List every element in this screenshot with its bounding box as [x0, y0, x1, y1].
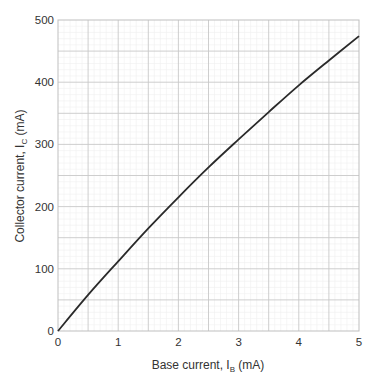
- y-tick-label: 200: [35, 201, 54, 213]
- y-tick-label: 400: [35, 76, 54, 88]
- x-tick-label: 5: [356, 336, 362, 348]
- x-tick-label: 4: [296, 336, 303, 348]
- y-tick-label: 300: [35, 138, 54, 150]
- x-tick-label: 0: [55, 336, 61, 348]
- x-tick-label: 2: [175, 336, 181, 348]
- y-tick-label: 0: [48, 325, 54, 337]
- y-axis-ticks: 0100200300400500: [35, 14, 54, 337]
- y-axis-label: Collector current, IC (mA): [13, 109, 29, 242]
- chart: 012345 0100200300400500 Base current, IB…: [0, 0, 376, 383]
- x-tick-label: 1: [115, 336, 121, 348]
- x-tick-label: 3: [235, 336, 241, 348]
- x-axis-ticks: 012345: [55, 336, 362, 348]
- y-tick-label: 500: [35, 14, 54, 26]
- y-tick-label: 100: [35, 263, 54, 275]
- major-grid: [58, 20, 359, 331]
- x-axis-label: Base current, IB (mA): [152, 358, 265, 374]
